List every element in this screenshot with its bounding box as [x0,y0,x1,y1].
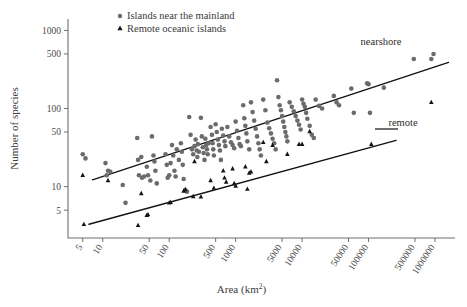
x-tick-label: 500 [201,242,217,260]
nearshore-point [285,139,290,144]
nearshore-point [167,173,172,178]
x-tick-label: 5 [73,242,84,252]
remote-point [230,166,235,170]
nearshore-point [210,133,215,138]
nearshore-point [247,147,252,152]
nearshore-point [201,151,206,156]
nearshore-point [312,136,317,141]
remote-point [300,142,305,146]
nearshore-point [287,100,292,105]
remote-point [307,129,312,133]
remote-point [285,152,290,156]
nearshore-point [211,147,216,152]
nearshore-point [412,57,417,62]
remote-point [369,142,374,146]
legend-circle-icon [118,14,122,18]
nearshore-point [210,141,215,146]
remote-point [243,164,248,168]
remote-point [139,191,144,195]
nearshore-point [153,168,158,173]
nearshore-point [368,111,373,116]
legend: Islands near the mainlandRemote oceanic … [117,10,235,34]
nearshore-point [233,119,238,124]
nearshore-point [304,111,309,116]
nearshore-point [305,116,310,121]
nearshore-point [261,97,266,102]
nearshore-point [221,133,226,138]
nearshore-point [177,158,182,163]
nearshore-point [337,103,342,108]
nearshore-point [235,128,240,133]
nearshore-point [191,152,196,157]
nearshore-point [170,143,175,148]
remote-point [429,100,434,104]
nearshore-point [256,141,261,146]
nearshore-point [180,163,185,168]
nearshore-point [135,136,140,141]
nearshore-point [279,108,284,113]
nearshore-point [273,147,278,152]
nearshore-point [172,168,177,173]
remote-point [221,168,226,172]
series-nearshore [80,52,435,206]
nearshore-point [217,143,222,148]
y-tick-label: 1000 [42,26,61,36]
remote-point [224,179,229,183]
nearshore-point [199,116,204,121]
remote-point [80,173,85,177]
nearshore-point [181,177,186,182]
nearshore-point [146,173,151,178]
nearshore-point [223,144,228,149]
y-tick-label: 10 [52,182,62,192]
nearshore-point [187,115,192,120]
nearshore-point [276,95,281,100]
nearshore-point [218,148,223,153]
legend-label-0: Islands near the mainland [127,10,235,21]
nearshore-point [429,57,434,62]
nearshore-point [212,153,217,158]
nearshore-point [320,106,325,111]
nearshore-point [171,153,176,158]
remote-point [199,194,204,198]
nearshore-point [297,122,302,127]
nearshore-point [203,136,208,141]
nearshore-point [280,114,285,119]
nearshore-point [139,155,144,160]
remote-point [212,185,217,189]
nearshore-point [154,181,159,186]
remote-point [261,140,266,144]
nearshore-point [313,97,318,102]
remote-point [192,159,197,163]
nearshore-point [202,158,207,163]
nearshore-point [244,131,249,136]
nearshore-point [291,109,296,114]
remote-fit-line [89,140,396,224]
nearshore-point [257,147,262,152]
nearshore-point [275,78,280,83]
nearshore-point [290,105,295,110]
nearshore-point [239,144,244,149]
nearshore-point [352,111,357,116]
nearshore-point [281,119,286,124]
nearshore-point [253,127,258,132]
nearshore-point [104,173,109,178]
legend-label-1: Remote oceanic islands [127,23,226,34]
x-axis-title: Area (km2) [217,282,267,297]
y-tick-label: 500 [47,49,62,59]
nearshore-point [222,139,227,144]
nearshore-point [208,125,213,130]
nearshore-point [219,158,224,163]
nearshore-point [283,130,288,135]
nearshore-point [236,136,241,141]
nearshore-point [179,141,184,146]
nearshore-fit-label: nearshore [361,36,402,47]
nearshore-point [349,86,354,91]
nearshore-point [144,164,149,169]
nearshore-point [263,108,268,113]
remote-point [136,223,141,227]
nearshore-point [303,105,308,110]
nearshore-point [227,134,232,139]
nearshore-point [249,100,254,105]
nearshore-point [150,134,155,139]
nearshore-point [193,137,198,142]
